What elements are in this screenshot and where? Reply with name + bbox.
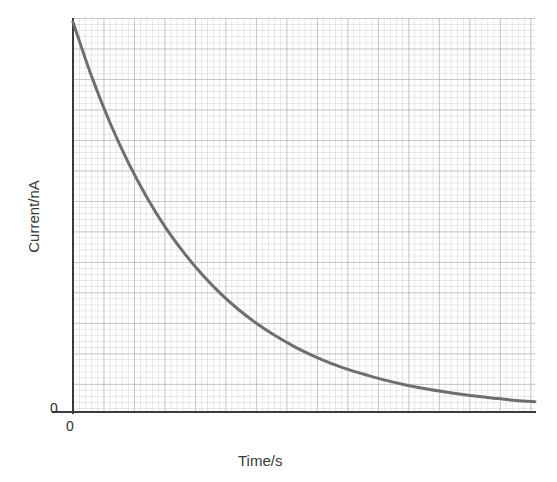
x-axis-line (52, 411, 536, 413)
x-axis-origin-tick-label: 0 (66, 418, 74, 434)
y-axis-origin-tick-label: 0 (50, 400, 58, 416)
chart-figure: Current/nA Time/s 0 0 (0, 0, 557, 482)
graph-paper-grid (73, 18, 535, 412)
y-axis-label: Current/nA (25, 157, 42, 277)
x-axis-label: Time/s (238, 452, 282, 469)
y-axis-line (72, 18, 74, 414)
